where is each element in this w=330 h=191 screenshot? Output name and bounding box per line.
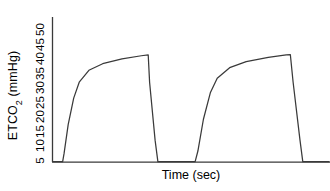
capnography-chart-figure: ETCO2 (mmHg) 5 10 15 20 25 30 35 40 45 5… [0,0,330,191]
etco2-waveform-line [53,55,329,162]
plot-area [0,0,330,191]
